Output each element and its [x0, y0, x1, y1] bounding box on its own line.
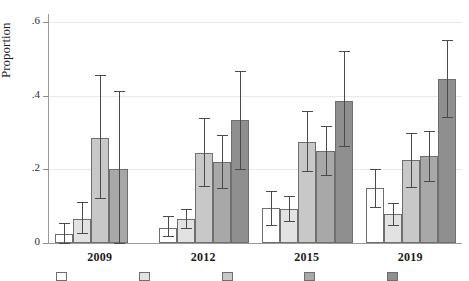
error-bar-cap: [77, 202, 88, 203]
error-bar-2009-series-1: [64, 223, 65, 243]
legend-swatch-series-5: [387, 272, 398, 281]
x-axis-label-2015: 2015: [255, 250, 359, 265]
error-bar-2015-series-5: [344, 51, 345, 146]
x-axis-label-2012: 2012: [152, 250, 256, 265]
error-bar-cap: [266, 225, 277, 226]
error-bar-cap: [217, 135, 228, 136]
error-bar-cap: [424, 181, 435, 182]
error-bar-2012-series-1: [168, 216, 169, 236]
error-bar-cap: [302, 171, 313, 172]
error-bar-cap: [163, 216, 174, 217]
error-bar-cap: [370, 169, 381, 170]
error-bar-cap: [406, 187, 417, 188]
legend-item-series-2: [139, 272, 222, 281]
error-bar-2015-series-2: [289, 196, 290, 221]
error-bar-cap: [163, 236, 174, 237]
y-tick-label: .6: [20, 14, 40, 26]
error-bar-cap: [266, 191, 277, 192]
error-bar-cap: [59, 223, 70, 224]
error-bar-cap: [370, 207, 381, 208]
error-bar-2019-series-5: [447, 40, 448, 117]
error-bar-2012-series-5: [240, 71, 241, 169]
error-bar-2015-series-3: [307, 111, 308, 171]
error-bar-2012-series-4: [222, 135, 223, 188]
gridline: [48, 22, 462, 23]
legend-swatch-series-1: [56, 272, 67, 281]
error-bar-cap: [284, 221, 295, 222]
error-bar-cap: [95, 75, 106, 76]
error-bar-cap: [114, 91, 125, 92]
error-bar-2015-series-1: [271, 191, 272, 225]
y-axis-title: Proportion: [0, 22, 14, 78]
error-bar-cap: [388, 225, 399, 226]
legend-item-series-1: [56, 272, 139, 281]
error-bar-cap: [442, 117, 453, 118]
error-bar-cap: [388, 203, 399, 204]
y-tick-label: .4: [20, 88, 40, 100]
x-axis-label-2019: 2019: [359, 250, 463, 265]
error-bar-cap: [77, 233, 88, 234]
x-axis-line: [48, 243, 462, 244]
error-bar-cap: [302, 111, 313, 112]
error-bar-cap: [339, 51, 350, 52]
error-bar-2019-series-3: [411, 133, 412, 188]
error-bar-2015-series-4: [326, 126, 327, 175]
error-bar-cap: [199, 118, 210, 119]
error-bar-cap: [199, 186, 210, 187]
error-bar-2012-series-3: [204, 118, 205, 186]
y-axis-line: [48, 14, 49, 244]
legend-swatch-series-4: [304, 272, 315, 281]
error-bar-cap: [321, 126, 332, 127]
error-bar-2012-series-2: [186, 209, 187, 228]
y-tick-label: 0: [20, 235, 40, 247]
error-bar-2009-series-2: [82, 202, 83, 233]
bar-chart: Proportion 0.2.4.6 2009201220152019: [0, 0, 469, 281]
error-bar-cap: [424, 131, 435, 132]
error-bar-cap: [321, 175, 332, 176]
error-bar-2019-series-1: [375, 169, 376, 207]
legend-item-series-4: [304, 272, 387, 281]
gridline: [48, 96, 462, 97]
y-tick-label: .2: [20, 161, 40, 173]
error-bar-cap: [406, 133, 417, 134]
error-bar-cap: [59, 243, 70, 244]
error-bar-2009-series-3: [100, 75, 101, 198]
error-bar-cap: [95, 198, 106, 199]
error-bar-cap: [181, 209, 192, 210]
legend-item-series-5: [387, 272, 462, 281]
legend-swatch-series-2: [139, 272, 150, 281]
x-axis-label-2009: 2009: [48, 250, 152, 265]
legend-item-series-3: [222, 272, 305, 281]
error-bar-cap: [284, 196, 295, 197]
error-bar-cap: [217, 188, 228, 189]
legend-swatch-series-3: [222, 272, 233, 281]
error-bar-2019-series-2: [393, 203, 394, 224]
error-bar-cap: [442, 40, 453, 41]
error-bar-2009-series-4: [119, 91, 120, 243]
error-bar-cap: [339, 146, 350, 147]
error-bar-cap: [181, 228, 192, 229]
error-bar-2019-series-4: [429, 131, 430, 181]
error-bar-cap: [114, 243, 125, 244]
error-bar-cap: [235, 71, 246, 72]
chart-legend: [48, 272, 462, 281]
error-bar-cap: [235, 169, 246, 170]
